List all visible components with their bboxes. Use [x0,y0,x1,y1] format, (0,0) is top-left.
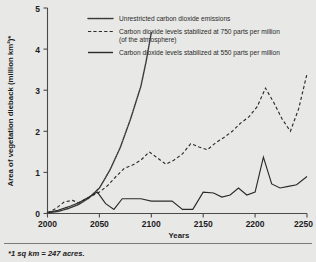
y-axis-title: Area of vegetation dieback (million km²)… [6,35,15,187]
x-tick-label-2200: 2200 [246,219,265,229]
x-tick-label-2050: 2050 [90,219,109,229]
y-tick-label-5: 5 [35,4,40,14]
y-tick-label-1: 1 [35,168,40,178]
vegetation-dieback-chart: Unrestricted carbon dioxide emissions Ca… [0,0,316,262]
legend-label-unrestricted: Unrestricted carbon dioxide emissions [119,15,231,22]
y-tick-label-3: 3 [35,86,40,96]
x-tick-label-2150: 2150 [194,219,213,229]
x-tick-label-2100: 2100 [142,219,161,229]
chart-figure: Unrestricted carbon dioxide emissions Ca… [0,0,316,262]
y-tick-label-4: 4 [35,45,40,55]
y-tick-label-2: 2 [35,127,40,137]
x-tick-label-2000: 2000 [38,219,57,229]
x-axis-title: Years [169,231,190,240]
legend-label-550ppm: Carbon dioxide levels stabilized at 550 … [119,49,280,57]
legend-label-750ppm-line2: (of the atmosphere) [119,36,177,44]
legend-label-750ppm: Carbon dioxide levels stabilized at 750 … [119,28,280,36]
x-tick-label-2250: 2250 [294,219,313,229]
y-tick-label-0: 0 [35,209,40,219]
footnote-text: *1 sq km = 247 acres. [8,249,85,258]
